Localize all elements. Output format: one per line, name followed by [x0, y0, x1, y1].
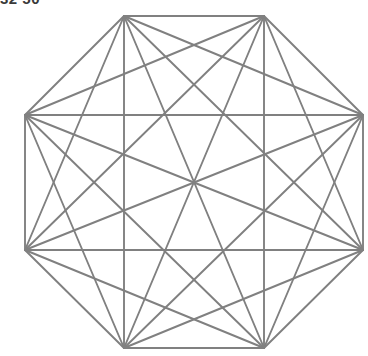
octagon-complete-graph-figure — [0, 0, 368, 356]
page-title: 32 50 — [0, 0, 40, 6]
